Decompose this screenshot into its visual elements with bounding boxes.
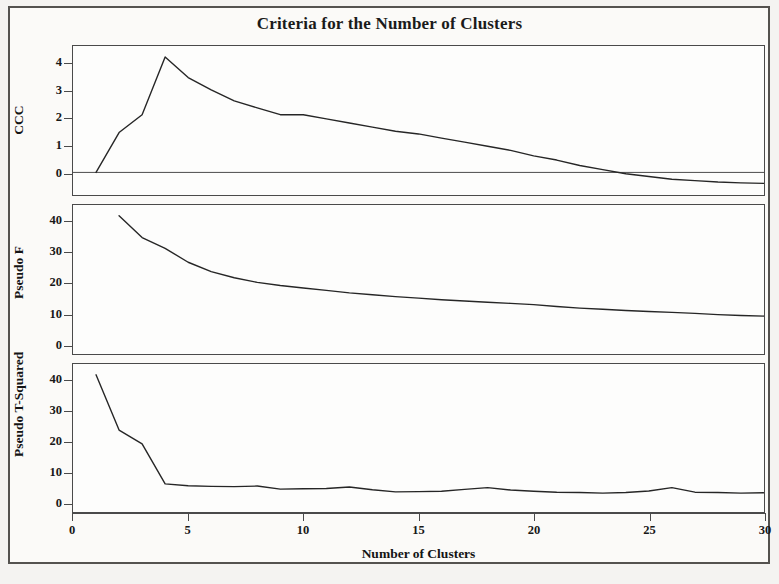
pseudo_t_squared-y-tick-label: 0 [28,497,62,510]
x-tick [188,513,189,521]
ccc-plot-area [73,46,764,195]
pseudo_f-y-tick [64,346,72,347]
ccc-y-tick-label: 1 [28,139,62,152]
x-tick-label: 0 [52,523,92,538]
pseudo_t_squared-axis-title: Pseudo T-Squared [11,417,27,457]
x-tick-label: 25 [630,523,670,538]
pseudo_f-y-tick [64,252,72,253]
x-tick [765,513,766,521]
panel-pseudo-f [72,204,765,355]
x-axis-line [72,513,765,514]
pseudo_f-y-tick [64,315,72,316]
pseudo_t_squared-y-tick [64,411,72,412]
pseudo_t_squared-y-tick [64,442,72,443]
x-tick [303,513,304,521]
ccc-y-tick [64,118,72,119]
pseudo-t-squared-plot-area [73,364,764,512]
page-title: Criteria for the Number of Clusters [0,14,779,34]
x-tick-label: 15 [399,523,439,538]
pseudo_t_squared-y-tick-label: 40 [28,373,62,386]
pseudo_t_squared-y-tick [64,380,72,381]
pseudo_f-y-tick [64,283,72,284]
x-tick-label: 30 [745,523,779,538]
pseudo_f-y-tick-label: 0 [28,339,62,352]
pseudo_t_squared-y-tick-label: 20 [28,435,62,448]
pseudo_f-series-line [119,216,764,316]
pseudo_t_squared-y-tick-label: 30 [28,404,62,417]
x-tick [419,513,420,521]
ccc-y-tick [64,63,72,64]
ccc-y-tick [64,146,72,147]
pseudo_f-y-tick [64,221,72,222]
pseudo_t_squared-series-line [96,375,764,493]
ccc-y-tick-label: 3 [28,84,62,97]
pseudo_t_squared-y-tick [64,473,72,474]
ccc-y-tick [64,174,72,175]
x-tick [534,513,535,521]
ccc-y-tick-label: 4 [28,56,62,69]
pseudo-f-plot-area [73,205,764,354]
pseudo_t_squared-y-tick-label: 10 [28,466,62,479]
x-tick-label: 20 [514,523,554,538]
panel-ccc [72,45,765,196]
pseudo_f-y-tick-label: 30 [28,245,62,258]
x-tick [72,513,73,521]
x-tick-label: 10 [283,523,323,538]
pseudo_f-y-tick-label: 10 [28,308,62,321]
pseudo_f-axis-title: Pseudo F [11,259,27,299]
ccc-y-tick [64,91,72,92]
ccc-y-tick-label: 2 [28,111,62,124]
chart-page: Criteria for the Number of Clusters 0123… [0,0,779,584]
ccc-y-tick-label: 0 [28,167,62,180]
pseudo_f-y-tick-label: 40 [28,214,62,227]
x-tick-label: 5 [168,523,208,538]
ccc-series-line [96,57,764,183]
panel-pseudo-t-squared [72,363,765,513]
pseudo_f-y-tick-label: 20 [28,276,62,289]
pseudo_t_squared-y-tick [64,504,72,505]
ccc-axis-title: CCC [11,100,27,140]
x-tick [650,513,651,521]
x-axis-title: Number of Clusters [72,546,765,562]
